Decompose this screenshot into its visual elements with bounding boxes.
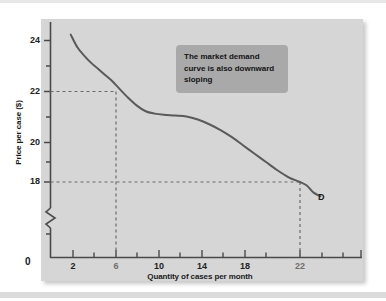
x-tick-label-10: 10 [148,261,170,271]
annotation-callout: The market demand curve is also downward… [176,45,288,93]
y-axis-ticks [44,41,51,235]
y-axis-break-zigzag [46,208,55,228]
figure-container: 24 22 20 18 2 6 10 14 18 22 0 Price per … [0,0,386,301]
x-tick-label-18: 18 [234,261,256,271]
x-tick-label-14: 14 [191,261,213,271]
origin-label: 0 [25,256,31,267]
x-axis-title: Quantity of cases per month [110,272,290,281]
y-axis-title: Price per case ($) [14,85,23,181]
x-tick-label-22: 22 [289,261,311,271]
y-tick-label-24: 24 [18,35,40,45]
x-tick-label-6: 6 [105,261,127,271]
demand-curve-label: D [318,192,325,202]
x-tick-label-2: 2 [62,261,84,271]
